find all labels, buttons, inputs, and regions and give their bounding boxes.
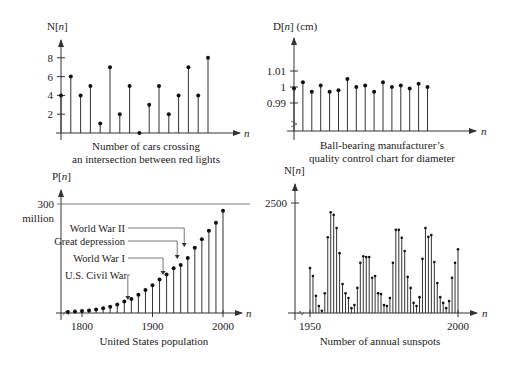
chart-population: P[n] n 300 million 180019002000 World Wa…	[22, 170, 252, 347]
data-point	[137, 131, 141, 135]
data-point	[359, 262, 362, 265]
stem	[147, 103, 151, 133]
stem	[128, 84, 132, 133]
stem	[186, 256, 190, 313]
stem	[108, 65, 112, 133]
data-point	[321, 310, 324, 313]
data-point	[179, 263, 183, 267]
data-point	[383, 304, 386, 307]
data-point	[335, 227, 338, 230]
cars-ytick-4: 4	[48, 89, 54, 101]
data-point	[292, 87, 296, 91]
stem	[69, 75, 73, 133]
stem	[59, 93, 63, 133]
stem	[137, 131, 141, 135]
data-point	[310, 90, 314, 94]
chart-ballbearing: D[n] (cm) n 0.9911.01 Ball-bearing manuf…	[267, 20, 487, 164]
data-point	[418, 296, 421, 299]
data-point	[193, 246, 197, 250]
data-point	[165, 272, 169, 276]
data-point	[309, 267, 312, 270]
annotation-leader-line	[128, 241, 177, 256]
population-x-label: n	[246, 307, 252, 319]
data-point	[426, 85, 430, 89]
sunspots-y-label: N[n]	[284, 164, 305, 176]
stem	[337, 88, 341, 131]
stem	[221, 209, 225, 313]
stem	[374, 275, 377, 313]
data-point	[167, 112, 171, 116]
data-point	[129, 297, 133, 301]
stem	[353, 304, 356, 313]
data-point	[392, 262, 395, 265]
chart-sunspots: N[n] n 2500 19502000 Number of annual su…	[265, 164, 488, 347]
figure-canvas: N[n] n 2468 Number of cars crossing an i…	[0, 0, 506, 365]
data-point	[386, 305, 389, 308]
stem	[424, 227, 427, 313]
data-point	[59, 93, 63, 97]
stem	[312, 275, 315, 313]
data-point	[207, 229, 211, 233]
stem	[318, 305, 321, 313]
stem	[347, 297, 350, 313]
stem	[457, 248, 460, 313]
stem	[345, 77, 349, 131]
cars-caption-line-2: an intersection between red lights	[72, 153, 220, 165]
data-point	[381, 80, 385, 84]
data-point	[147, 103, 151, 107]
data-point	[344, 292, 347, 295]
stem	[454, 262, 457, 313]
data-point	[332, 214, 335, 217]
stem	[335, 227, 338, 313]
stem	[193, 246, 197, 313]
stem	[200, 237, 204, 313]
stem	[80, 309, 84, 313]
data-point	[430, 234, 433, 237]
data-point	[350, 307, 353, 310]
stem	[321, 310, 324, 314]
stem	[377, 292, 380, 313]
data-point	[338, 252, 341, 255]
stem	[389, 297, 392, 313]
stem	[359, 262, 362, 313]
annotation-arrow-icon	[182, 243, 187, 247]
stem	[383, 304, 386, 313]
data-point	[403, 250, 406, 253]
ballbearing-caption-line-1: Ball-bearing manufacturer’s	[320, 139, 444, 151]
stem	[371, 277, 374, 314]
data-point	[408, 87, 412, 91]
stem	[87, 308, 91, 313]
stem	[326, 236, 329, 313]
stem	[406, 276, 409, 313]
sunspots-x-label: n	[482, 307, 488, 319]
data-point	[79, 93, 83, 97]
stem	[350, 307, 353, 313]
stem	[324, 292, 327, 313]
data-point	[69, 75, 73, 79]
stem	[207, 229, 211, 313]
data-point	[196, 93, 200, 97]
stem	[310, 90, 314, 131]
data-point	[390, 85, 394, 89]
stem	[445, 307, 448, 313]
stem	[436, 282, 439, 313]
data-point	[356, 287, 359, 290]
data-point	[353, 304, 356, 307]
population-xtick-1800: 1800	[71, 320, 94, 332]
stem	[332, 214, 335, 313]
stem	[386, 305, 389, 313]
data-point	[354, 85, 358, 89]
data-point	[315, 295, 318, 298]
data-point	[412, 302, 415, 305]
population-ytick-million: million	[22, 212, 54, 224]
stem	[88, 84, 92, 133]
population-ytick-300: 300	[38, 198, 55, 210]
stem	[363, 83, 367, 131]
annotation-leader-line	[128, 275, 130, 297]
data-point	[400, 236, 403, 239]
data-point	[371, 277, 374, 280]
population-y-label: P[n]	[52, 170, 71, 182]
data-point	[98, 122, 102, 126]
ballbearing-caption-line-2: quality control chart for diameter	[309, 152, 455, 164]
cars-y-label: N[n]	[47, 20, 68, 32]
